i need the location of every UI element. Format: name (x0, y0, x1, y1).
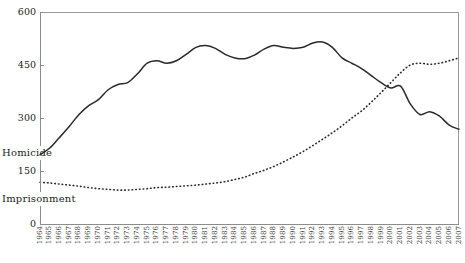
x-axis-tick-label: 1986 (251, 226, 258, 244)
x-axis-tick-label: 2001 (397, 226, 404, 244)
x-axis-tick-label: 1978 (173, 226, 180, 244)
x-axis-tick-label: 1990 (290, 226, 297, 244)
x-axis: 1964196519661967196819691970197119721973… (40, 226, 459, 263)
x-axis-tick-label: 2000 (387, 226, 394, 244)
x-axis-tick-label: 1973 (124, 226, 131, 244)
x-axis-tick-label: 1991 (300, 226, 307, 244)
y-axis-line-segment (40, 206, 41, 224)
x-axis-tick-label: 1980 (192, 226, 199, 244)
x-axis-tick-label: 1983 (222, 226, 229, 244)
x-axis-tick-label: 1972 (114, 226, 121, 244)
series-line-imprisonment (40, 58, 459, 190)
series-line-homicide (40, 42, 459, 155)
x-axis-tick-label: 2007 (456, 226, 463, 244)
x-axis-tick-label: 2003 (417, 226, 424, 244)
x-axis-tick-label: 1985 (241, 226, 248, 244)
x-axis-tick-label: 1989 (280, 226, 287, 244)
x-axis-tick-label: 1987 (261, 226, 268, 244)
y-axis-tick-mark (40, 224, 44, 225)
x-axis-tick-label: 1982 (212, 226, 219, 244)
x-axis-tick-label: 1969 (85, 226, 92, 244)
x-axis-tick-label: 1996 (348, 226, 355, 244)
x-axis-tick-label: 1968 (75, 226, 82, 244)
x-axis-tick-label: 1998 (368, 226, 375, 244)
x-axis-tick-label: 1979 (183, 226, 190, 244)
x-axis-tick-label: 1971 (105, 226, 112, 244)
x-axis-tick-label: 1981 (202, 226, 209, 244)
x-axis-tick-label: 1995 (339, 226, 346, 244)
x-axis-tick-label: 1992 (309, 226, 316, 244)
x-axis-tick-label: 1974 (134, 226, 141, 244)
x-axis-tick-label: 1965 (46, 226, 53, 244)
x-axis-tick-label: 1994 (329, 226, 336, 244)
x-axis-tick-label: 2002 (407, 226, 414, 244)
x-axis-tick-label: 1976 (153, 226, 160, 244)
x-axis-tick-label: 1984 (231, 226, 238, 244)
x-axis-tick-label: 1967 (66, 226, 73, 244)
x-axis-tick-label: 2005 (436, 226, 443, 244)
x-axis-tick-label: 1988 (270, 226, 277, 244)
x-axis-tick-label: 1975 (144, 226, 151, 244)
x-axis-tick-label: 1993 (319, 226, 326, 244)
y-axis-line-segment (40, 12, 41, 146)
x-axis-tick-label: 1997 (358, 226, 365, 244)
y-axis-line-segment (40, 160, 41, 192)
x-axis-tick-label: 1977 (163, 226, 170, 244)
line-chart: 6004503001500HomicideImprisonment 196419… (0, 0, 465, 263)
x-axis-tick-label: 1999 (378, 226, 385, 244)
x-axis-tick-label: 2004 (426, 226, 433, 244)
x-axis-tick-label: 1964 (37, 226, 44, 244)
plot-area (0, 0, 465, 263)
x-axis-tick-label: 2006 (446, 226, 453, 244)
x-axis-tick-label: 1970 (95, 226, 102, 244)
x-axis-tick-label: 1966 (56, 226, 63, 244)
